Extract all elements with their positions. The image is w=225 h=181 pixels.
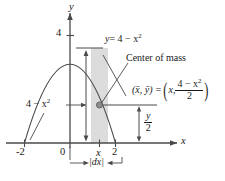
- curve-equation-exponent: 2: [138, 32, 141, 39]
- centroid-formula-fraction: 4 − x22: [175, 79, 203, 101]
- half-height-numerator: y: [144, 111, 152, 123]
- strip-height-base: 4 − x: [26, 98, 47, 109]
- left-curve-leader: [30, 113, 44, 140]
- height-measure-arrow-up: [84, 50, 89, 56]
- half-height-label: y2: [144, 111, 152, 133]
- strip-shaded-region: [91, 48, 108, 143]
- x-axis-label: x: [181, 136, 186, 147]
- fraction-denominator: 2: [175, 91, 203, 102]
- strip-height-exponent: 2: [47, 97, 50, 104]
- centroid-formula: (x̄, ȳ) =(x,4 − x22): [132, 79, 210, 101]
- y-axis-arrowhead: [67, 13, 73, 20]
- strip-height-label: 4 − x2: [26, 99, 50, 109]
- half-height-fraction: y2: [144, 111, 152, 133]
- fraction-numerator: 4 − x2: [175, 79, 203, 91]
- fraction-numerator-exponent: 2: [198, 77, 201, 84]
- curve-equation-body: = 4 − x: [109, 33, 138, 44]
- tick-label-4: 4: [56, 28, 61, 39]
- tick-label-0: 0: [60, 147, 65, 158]
- half-height-denominator: 2: [144, 123, 152, 134]
- formula-paren-open: (: [163, 81, 167, 100]
- x-axis-arrowhead: [170, 140, 177, 146]
- tick-label-minus-2: -2: [16, 147, 25, 158]
- centroid-figure: y x 4 -2 0 x 2 y= 4 − x2 Center of mass …: [0, 0, 225, 181]
- height-measure-arrow-down: [84, 136, 89, 142]
- y-axis-label: y: [69, 2, 74, 13]
- formula-paren-close: ): [205, 81, 209, 100]
- half-height-arrow-down: [137, 137, 141, 143]
- fraction-numerator-base: 4 − x: [177, 78, 198, 89]
- half-height-arrow-up: [137, 106, 141, 112]
- center-of-mass-label: Center of mass: [126, 53, 186, 63]
- dx-label: |dx|: [89, 157, 104, 167]
- tick-label-2: 2: [112, 147, 117, 158]
- centroid-formula-x: x,: [168, 85, 175, 95]
- centroid-formula-lhs: (x̄, ȳ) =: [132, 85, 162, 95]
- curve-equation-label: y= 4 − x2: [105, 34, 142, 44]
- dx-right-arrowhead: [107, 161, 113, 166]
